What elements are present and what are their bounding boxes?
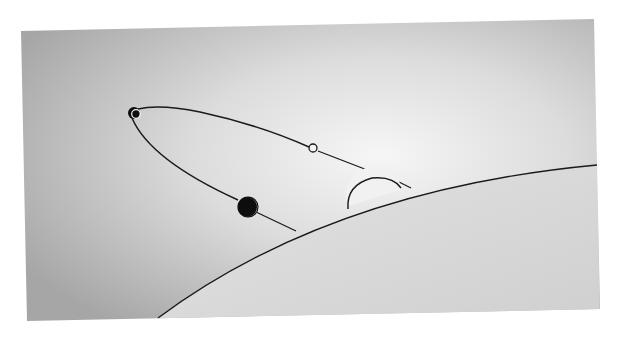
midpoint-marker <box>309 144 317 152</box>
crescent-body <box>238 197 259 217</box>
orbit-diagram <box>0 0 620 338</box>
